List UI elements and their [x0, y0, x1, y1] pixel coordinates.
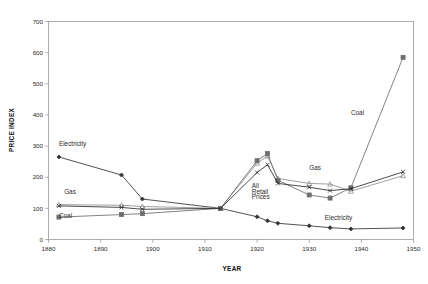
- data-point-square: [120, 213, 124, 217]
- y-axis-title: PRICE INDEX: [8, 107, 15, 152]
- data-point-square: [140, 212, 144, 216]
- y-tick-label: 100: [33, 205, 44, 212]
- x-tick-label: 1910: [198, 245, 212, 252]
- annotation-all-retail-3: Prices: [252, 193, 270, 200]
- annotation-electricity-right: Electricity: [325, 214, 353, 222]
- x-tick-label: 1900: [146, 245, 160, 252]
- data-point-square: [255, 159, 259, 163]
- y-tick-label: 400: [33, 111, 44, 118]
- y-tick-label: 200: [33, 173, 44, 180]
- y-tick-label: 0: [40, 236, 44, 243]
- y-tick-label: 500: [33, 80, 44, 87]
- x-axis-title: YEAR: [223, 265, 242, 272]
- y-tick-label: 300: [33, 142, 44, 149]
- x-tick-label: 1890: [94, 245, 108, 252]
- data-point-square: [328, 196, 332, 200]
- price-index-line-chart: 0100200300400500600700 18801890190019101…: [0, 0, 428, 284]
- data-point-square: [401, 55, 405, 59]
- annotation-gas-right: Gas: [309, 164, 321, 171]
- x-tick-label: 1930: [302, 245, 316, 252]
- x-tick-label: 1950: [407, 245, 421, 252]
- annotation-gas-left: Gas: [64, 188, 76, 195]
- y-tick-label: 700: [33, 18, 44, 25]
- data-point-square: [307, 193, 311, 197]
- data-point-square: [266, 152, 270, 156]
- chart-canvas: 0100200300400500600700 18801890190019101…: [0, 0, 428, 284]
- x-tick-label: 1880: [42, 245, 56, 252]
- annotation-coal-right: Coal: [351, 109, 364, 116]
- y-tick-label: 600: [33, 49, 44, 56]
- x-tick-label: 1940: [354, 245, 368, 252]
- annotation-coal-left: Coal: [59, 212, 72, 219]
- x-tick-label: 1920: [250, 245, 264, 252]
- annotation-electricity-left: Electricity: [59, 140, 87, 148]
